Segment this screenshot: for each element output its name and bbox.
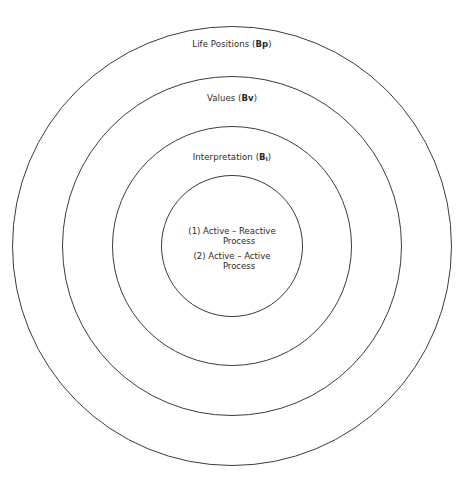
concentric-circle-diagram: Life Positions (Bp) Values (Bv) Interpre… xyxy=(0,0,464,483)
core-item-active-reactive: (1) Active – Reactive Process xyxy=(0,226,464,246)
label-values: Values (Bv) xyxy=(0,93,464,104)
symbol-bi: B xyxy=(259,152,266,162)
symbol-bv: Bv xyxy=(241,93,253,103)
ring-core-process xyxy=(161,175,303,317)
symbol-bp: Bp xyxy=(255,39,268,49)
label-interpretation: Interpretation (BI) xyxy=(0,152,464,165)
label-life-positions: Life Positions (Bp) xyxy=(0,39,464,50)
core-item-active-active: (2) Active – Active Process xyxy=(0,251,464,271)
